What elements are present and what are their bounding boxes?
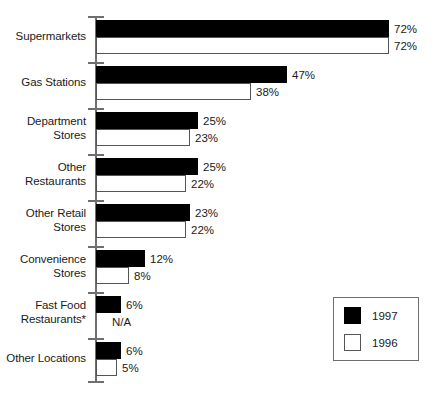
category-label-line: Restaurants: [0, 175, 86, 189]
category-label-line: Other: [0, 161, 86, 175]
bar-value-1996: 23%: [195, 132, 218, 144]
bar-1997: 25%: [96, 112, 198, 129]
bar-value-1997: 72%: [394, 23, 417, 35]
legend-label: 1997: [372, 310, 398, 322]
legend-swatch-filled-icon: [344, 307, 361, 324]
legend-entry-1997: 1997: [344, 307, 398, 324]
bar-1996: 8%: [96, 267, 129, 284]
bar-1996-missing: N/A: [96, 313, 121, 330]
bar-value-1997: 25%: [203, 161, 226, 173]
axis-tick: [88, 292, 104, 294]
bar-value-1997: 47%: [292, 69, 315, 81]
category-label: Other Retail Stores: [0, 207, 86, 234]
bar-1997: 25%: [96, 158, 198, 175]
bar-1996: 38%: [96, 83, 251, 100]
category-label-line: Convenience: [0, 253, 86, 267]
category-label-line: Restaurants*: [0, 313, 86, 327]
category-label-line: Supermarkets: [0, 30, 86, 44]
bar-1997: 12%: [96, 250, 145, 267]
axis-tick: [88, 246, 104, 248]
category-label: Department Stores: [0, 115, 86, 142]
bar-value-1996: N/A: [112, 316, 131, 328]
axis-tick: [88, 338, 104, 340]
bar-1996: 72%: [96, 37, 389, 54]
category-label: Fast Food Restaurants*: [0, 299, 86, 326]
bar-pair: 23% 22%: [96, 204, 190, 238]
bar-pair: 6% 5%: [96, 342, 121, 376]
axis-tick: [88, 16, 104, 18]
bar-value-1996: 22%: [191, 178, 214, 190]
bar-1996: 5%: [96, 359, 117, 376]
category-label-line: Stores: [0, 267, 86, 281]
bar-value-1997: 12%: [150, 253, 173, 265]
axis-tick: [88, 108, 104, 110]
axis-tick: [88, 62, 104, 64]
category-label: Supermarkets: [0, 30, 86, 44]
bar-chart: Supermarkets 72% 72% Gas Stations 47% 38…: [0, 0, 433, 396]
bar-value-1997: 25%: [203, 115, 226, 127]
chart-legend: 1997 1996: [333, 297, 419, 361]
bar-value-1996: 72%: [394, 40, 417, 52]
category-label-line: Gas Stations: [0, 76, 86, 90]
bar-value-1997: 6%: [126, 299, 143, 311]
category-label-line: Stores: [0, 221, 86, 235]
legend-swatch-hollow-icon: [344, 334, 361, 351]
bar-pair: 47% 38%: [96, 66, 287, 100]
bar-value-1997: 6%: [126, 345, 143, 357]
bar-value-1996: 38%: [256, 86, 279, 98]
bar-1997: 6%: [96, 342, 121, 359]
category-label-line: Department: [0, 115, 86, 129]
legend-label: 1996: [372, 337, 398, 349]
bar-1996: 23%: [96, 129, 190, 146]
category-label-line: Other Retail: [0, 207, 86, 221]
axis-tick: [88, 381, 104, 383]
bar-value-1996: 5%: [122, 362, 139, 374]
bar-1996: 22%: [96, 221, 186, 238]
bar-pair: 25% 23%: [96, 112, 198, 146]
bar-1997: 72%: [96, 20, 389, 37]
category-label: Convenience Stores: [0, 253, 86, 280]
axis-tick: [88, 200, 104, 202]
category-label-line: Fast Food: [0, 299, 86, 313]
bar-1997: 47%: [96, 66, 287, 83]
bar-pair: 12% 8%: [96, 250, 145, 284]
bar-value-1997: 23%: [195, 207, 218, 219]
bar-value-1996: 22%: [191, 224, 214, 236]
bar-pair: 6% N/A: [96, 296, 121, 330]
category-label-line: Other Locations: [0, 352, 86, 366]
category-label: Gas Stations: [0, 76, 86, 90]
category-label: Other Locations: [0, 352, 86, 366]
bar-1996: 22%: [96, 175, 186, 192]
category-label: Other Restaurants: [0, 161, 86, 188]
bar-pair: 72% 72%: [96, 20, 389, 54]
bar-1997: 6%: [96, 296, 121, 313]
bar-value-1996: 8%: [134, 270, 151, 282]
legend-entry-1996: 1996: [344, 334, 398, 351]
axis-tick: [88, 154, 104, 156]
bar-1997: 23%: [96, 204, 190, 221]
category-label-line: Stores: [0, 129, 86, 143]
bar-pair: 25% 22%: [96, 158, 198, 192]
